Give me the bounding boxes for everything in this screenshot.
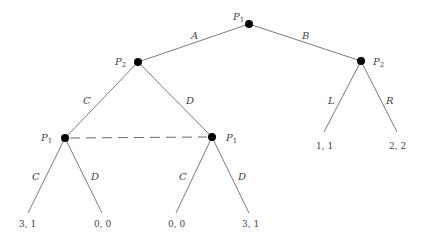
payoff-r: 2, 2 xyxy=(389,141,406,151)
payoff-dc: 0, 0 xyxy=(168,219,185,229)
information-set-line xyxy=(70,137,207,138)
payoff-cc: 3, 1 xyxy=(19,219,36,229)
edge-label-c: C xyxy=(83,95,91,106)
edge-label-a: A xyxy=(190,30,198,41)
root-label: P1 xyxy=(232,11,244,24)
payoff-cd: 0, 0 xyxy=(94,219,111,229)
edge-label-l: L xyxy=(327,95,335,106)
edge-label-d-left: D xyxy=(90,171,99,182)
edge-c xyxy=(65,62,138,138)
p2-right-node xyxy=(357,57,365,65)
edge-label-c-right: C xyxy=(179,171,187,182)
edge-label-d: D xyxy=(185,95,194,106)
edge-label-r: R xyxy=(385,95,394,106)
p2-left-label: P2 xyxy=(114,56,126,69)
p1-right-node xyxy=(208,133,216,141)
p2-right-label: P2 xyxy=(372,56,384,69)
p1-left-node xyxy=(61,134,69,142)
p1-right-label: P1 xyxy=(225,132,237,145)
payoff-dd: 3, 1 xyxy=(242,219,259,229)
payoff-l: 1, 1 xyxy=(316,141,333,151)
edge-label-b: B xyxy=(301,30,309,41)
p1-left-label: P1 xyxy=(40,132,52,145)
p2-left-node xyxy=(134,58,142,66)
edge-label-c-left: C xyxy=(32,171,40,182)
edge-label-d-right: D xyxy=(237,171,246,182)
root-node xyxy=(245,20,253,28)
edge-d xyxy=(138,62,212,137)
game-tree: P1 P2 P2 P1 P1 A B C D L R C D C D 3, 1 … xyxy=(0,0,424,243)
